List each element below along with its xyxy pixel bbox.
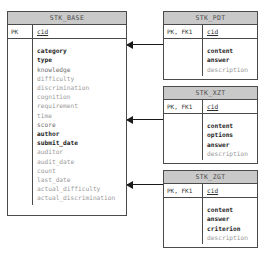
entity-title-stk-zgt: STK_ZGT <box>164 171 257 184</box>
attribute-list-stk-pdt: content answer description <box>202 39 257 76</box>
attribute-count: count <box>37 166 126 175</box>
attribute-difficulty: difficulty <box>37 74 126 83</box>
entity-title-stk-base: STK_BASE <box>8 12 126 25</box>
entity-key-section-stk-zgt: PK, FK1 cid <box>164 184 257 198</box>
entity-title-stk-xzt: STK_XZT <box>164 87 257 100</box>
attribute-score: score <box>37 120 126 129</box>
attribute-last-date: last_date <box>37 175 126 184</box>
key-label-stk-pdt: PK, FK1 <box>164 25 202 38</box>
attribute-content: content <box>207 205 257 214</box>
attribute-author: author <box>37 129 126 138</box>
entity-attribute-section-stk-zgt: content answer criterion description <box>164 198 257 244</box>
attribute-category: category <box>37 46 126 55</box>
entity-title-stk-pdt: STK_PDT <box>164 12 257 25</box>
attribute-actual-discrimination: actual_discrimination <box>37 193 126 202</box>
entity-key-section-stk-base: PK cid <box>8 25 126 39</box>
key-label-stk-base: PK <box>8 25 32 38</box>
connector-base-zgt-arrowhead <box>126 181 133 189</box>
entity-key-section-stk-pdt: PK, FK1 cid <box>164 25 257 39</box>
entity-attribute-section-stk-xzt: content options answer description <box>164 114 257 160</box>
entity-body-stk-base: PK cid category type knowledge difficult… <box>8 25 126 205</box>
attribute-audit-date: audit_date <box>37 157 126 166</box>
attribute-content: content <box>207 121 257 130</box>
attribute-cognition: cognition <box>37 92 126 101</box>
key-spacer-stk-zgt <box>164 198 202 244</box>
entity-body-stk-zgt: PK, FK1 cid content answer criterion des… <box>164 184 257 244</box>
entity-stk-xzt[interactable]: STK_XZT PK, FK1 cid content options answ… <box>163 86 258 164</box>
connector-base-pdt-arrowhead <box>126 41 133 49</box>
attribute-list-stk-zgt: content answer criterion description <box>202 198 257 244</box>
entity-stk-base[interactable]: STK_BASE PK cid category type knowledge … <box>7 11 127 216</box>
attribute-list-stk-base: category type knowledge difficulty discr… <box>32 39 126 204</box>
entity-body-stk-xzt: PK, FK1 cid content options answer descr… <box>164 100 257 160</box>
attribute-submit-date: submit_date <box>37 138 126 147</box>
attribute-answer: answer <box>207 55 257 64</box>
entity-key-section-stk-xzt: PK, FK1 cid <box>164 100 257 114</box>
key-attribute-cell-stk-zgt: cid <box>202 184 257 197</box>
attribute-description: description <box>207 149 257 158</box>
attribute-description: description <box>207 233 257 242</box>
key-spacer-stk-pdt <box>164 39 202 76</box>
entity-attribute-section-stk-base: category type knowledge difficulty discr… <box>8 39 126 204</box>
key-attribute-cell-stk-xzt: cid <box>202 100 257 113</box>
attribute-time: time <box>37 111 126 120</box>
entity-attribute-section-stk-pdt: content answer description <box>164 39 257 76</box>
attribute-cid: cid <box>207 102 257 111</box>
entity-stk-zgt[interactable]: STK_ZGT PK, FK1 cid content answer crite… <box>163 170 258 248</box>
attribute-discrimination: discrimination <box>37 83 126 92</box>
attribute-auditor: auditor <box>37 147 126 156</box>
attribute-list-stk-xzt: content options answer description <box>202 114 257 160</box>
attribute-criterion: criterion <box>207 224 257 233</box>
key-attribute-cell-stk-base: cid <box>32 25 126 38</box>
er-diagram-canvas: STK_BASE PK cid category type knowledge … <box>0 0 264 253</box>
key-label-stk-zgt: PK, FK1 <box>164 184 202 197</box>
attribute-cid: cid <box>207 186 257 195</box>
key-spacer-stk-xzt <box>164 114 202 160</box>
entity-stk-pdt[interactable]: STK_PDT PK, FK1 cid content answer descr… <box>163 11 258 80</box>
key-attribute-cell-stk-pdt: cid <box>202 25 257 38</box>
attribute-actual-difficulty: actual_difficulty <box>37 184 126 193</box>
key-spacer-stk-base <box>8 39 32 204</box>
attribute-cid: cid <box>207 27 257 36</box>
entity-body-stk-pdt: PK, FK1 cid content answer description <box>164 25 257 76</box>
attribute-type: type <box>37 55 126 64</box>
attribute-knowledge: knowledge <box>37 65 126 74</box>
attribute-cid: cid <box>37 27 126 36</box>
attribute-options: options <box>207 130 257 139</box>
attribute-requirement: requirement <box>37 101 126 110</box>
key-label-stk-xzt: PK, FK1 <box>164 100 202 113</box>
connector-base-xzt-arrowhead <box>126 116 133 124</box>
attribute-description: description <box>207 65 257 74</box>
attribute-content: content <box>207 46 257 55</box>
attribute-answer: answer <box>207 214 257 223</box>
attribute-answer: answer <box>207 140 257 149</box>
